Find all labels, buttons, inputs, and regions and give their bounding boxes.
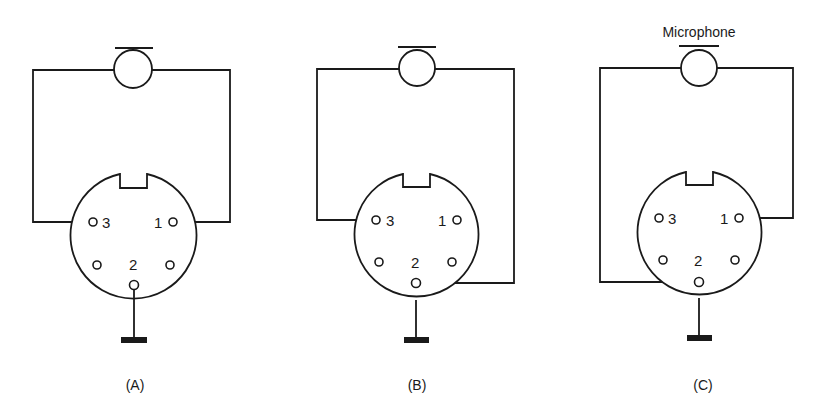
pin-1 (735, 214, 743, 222)
pin-1 (169, 218, 177, 226)
caption-c: (C) (693, 377, 712, 393)
pin-2-label: 2 (694, 252, 702, 269)
pin-2 (412, 279, 421, 288)
panel-a: 3 1 2 (A) (33, 48, 230, 393)
pin-3 (655, 214, 663, 222)
pin-3-label: 3 (668, 210, 676, 227)
din-microphone-wiring-diagram: 3 1 2 (A) 3 1 2 (0, 0, 821, 411)
pin-unused-left (659, 256, 667, 264)
microphone-icon (114, 48, 153, 88)
pin-unused-right (448, 258, 456, 266)
pin-1-label: 1 (720, 210, 728, 227)
pin-unused-right (166, 261, 174, 269)
pin-unused-left (375, 258, 383, 266)
pin-3 (89, 218, 97, 226)
microphone-icon (398, 47, 436, 86)
pin-2 (695, 278, 704, 287)
panel-c: Microphone 3 1 2 (C) (600, 24, 793, 393)
ground-icon (404, 300, 429, 343)
microphone-icon (679, 46, 719, 86)
pin-2-label: 2 (411, 254, 419, 271)
din-connector: 3 1 2 (637, 172, 761, 295)
microphone-label: Microphone (662, 24, 735, 40)
din-connector: 3 1 2 (71, 174, 197, 299)
pin-1-label: 1 (438, 212, 446, 229)
pin-1 (453, 216, 461, 224)
pin-3 (372, 216, 380, 224)
pin-3-label: 3 (386, 212, 394, 229)
pin-3-label: 3 (102, 214, 110, 231)
pin-1-label: 1 (154, 214, 162, 231)
pin-2-label: 2 (129, 256, 137, 273)
pin-unused-left (93, 261, 101, 269)
pin-unused-right (731, 256, 739, 264)
caption-a: (A) (126, 377, 145, 393)
pin-2 (130, 281, 139, 290)
ground-icon (687, 298, 712, 341)
din-connector: 3 1 2 (355, 174, 479, 297)
panel-b: 3 1 2 (B) (317, 47, 514, 393)
connector-shell (637, 172, 761, 295)
caption-b: (B) (408, 377, 427, 393)
